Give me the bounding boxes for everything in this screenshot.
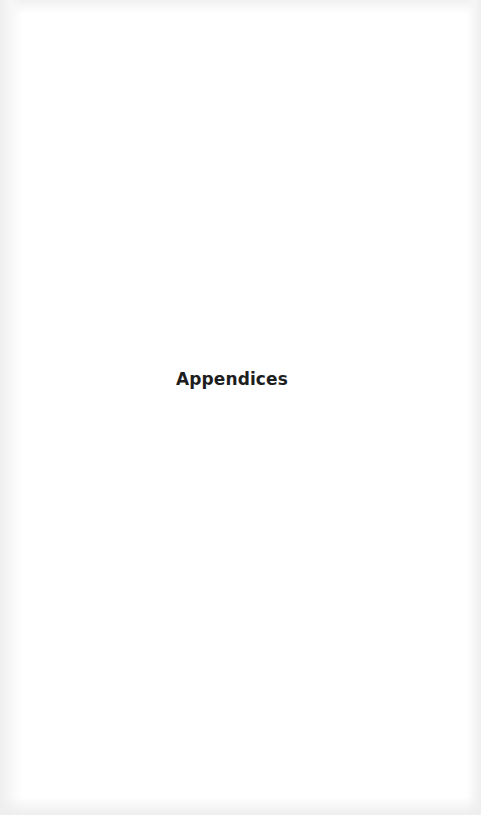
- scan-edge-bottom: [0, 797, 481, 815]
- scan-edge-right: [467, 0, 481, 815]
- scan-edge-left: [0, 0, 22, 815]
- scan-edge-top: [0, 0, 481, 14]
- document-page: Appendices: [0, 0, 481, 815]
- section-heading: Appendices: [176, 368, 288, 390]
